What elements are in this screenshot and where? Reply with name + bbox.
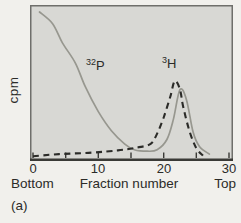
- h3-series-label: 3H: [162, 56, 176, 71]
- x-tick-30: 30: [222, 161, 236, 176]
- plot-area: 32P 3H: [30, 5, 233, 161]
- series-h3-path: [33, 81, 203, 157]
- x-axis-title: Fraction number: [80, 176, 178, 191]
- h3-element-symbol: H: [167, 56, 176, 71]
- x-axis-right-label: Top: [214, 176, 236, 191]
- x-tick-20: 20: [157, 161, 171, 176]
- p32-mass-number: 32: [86, 57, 96, 67]
- p32-series-label: 32P: [86, 58, 105, 73]
- radioactivity-gradient-figure: 32P 3H cpm 0 10 20 30 Bottom Fraction nu…: [0, 0, 241, 223]
- x-tick-10: 10: [91, 161, 105, 176]
- y-axis-label: cpm: [6, 76, 21, 103]
- p32-element-symbol: P: [96, 58, 105, 73]
- plot-border: [31, 6, 233, 161]
- x-tick-0: 0: [29, 161, 36, 176]
- chart-canvas: [30, 5, 233, 161]
- series-p32-path: [40, 12, 210, 154]
- x-axis-left-label: Bottom: [11, 176, 54, 191]
- figure-panel-label: (a): [11, 198, 28, 213]
